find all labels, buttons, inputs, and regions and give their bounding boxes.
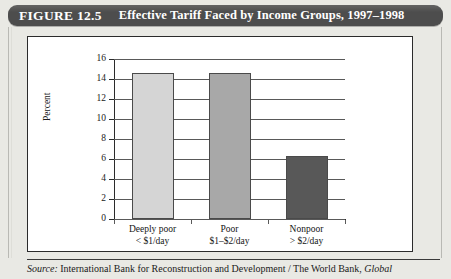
x-axis-tick: [345, 220, 346, 224]
y-axis-label: 0: [84, 214, 106, 224]
y-axis-label: 4: [84, 174, 106, 184]
y-axis-label: 14: [84, 74, 106, 84]
y-axis-title: Percent: [42, 93, 52, 122]
category-line-1: Deeply poor: [111, 224, 195, 236]
y-axis-tick: [109, 79, 114, 80]
y-axis-label: 10: [84, 114, 106, 124]
y-axis-label: 16: [84, 54, 106, 64]
figure-title: Effective Tariff Faced by Income Groups,…: [119, 8, 405, 23]
source-italic-tail: Global: [364, 263, 392, 274]
source-divider: [27, 259, 440, 260]
y-axis-tick: [109, 59, 114, 60]
y-axis-tick: [109, 99, 114, 100]
frame-right-rule: [441, 27, 442, 258]
y-axis-tick: [109, 199, 114, 200]
category-line-1: Poor: [188, 224, 272, 236]
figure-title-bar: FIGURE 12.5 Effective Tariff Faced by In…: [8, 5, 443, 26]
category-line-1: Nonpoor: [265, 224, 349, 236]
category-line-2: < $1/day: [111, 236, 195, 248]
x-axis-category-label: Poor$1–$2/day: [188, 224, 272, 247]
y-axis-tick: [109, 119, 114, 120]
frame-left-rule: [8, 27, 9, 258]
x-axis-category-label: Nonpoor> $2/day: [265, 224, 349, 247]
y-axis-label: 12: [84, 94, 106, 104]
x-axis-tick: [268, 220, 269, 224]
x-axis-tick: [191, 220, 192, 224]
frame-inner-left-rule: [11, 27, 12, 258]
y-axis-tick: [109, 159, 114, 160]
figure-number: FIGURE 12.5: [19, 8, 102, 24]
source-note: Source: International Bank for Reconstru…: [27, 262, 447, 275]
source-body: International Bank for Reconstruction an…: [58, 263, 365, 274]
y-axis-tick: [109, 179, 114, 180]
bar: [286, 156, 328, 219]
gridline: [114, 59, 345, 60]
category-line-2: > $2/day: [265, 236, 349, 248]
y-axis-label: 8: [84, 134, 106, 144]
figure-container: FIGURE 12.5 Effective Tariff Faced by In…: [0, 0, 451, 279]
chart-panel: Percent 0246810121416Deeply poor< $1/day…: [27, 36, 413, 252]
x-axis-category-label: Deeply poor< $1/day: [111, 224, 195, 247]
y-axis-label: 2: [84, 194, 106, 204]
y-axis-label: 6: [84, 154, 106, 164]
source-label: Source:: [27, 263, 58, 274]
bar: [209, 73, 251, 219]
plot-area: Percent 0246810121416Deeply poor< $1/day…: [28, 37, 412, 251]
category-line-2: $1–$2/day: [188, 236, 272, 248]
gridline: [114, 219, 345, 220]
bar: [132, 73, 174, 219]
x-axis-tick: [114, 220, 115, 224]
y-axis-tick: [109, 139, 114, 140]
